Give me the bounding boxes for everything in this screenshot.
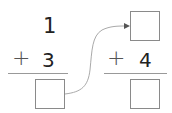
arrow-curve-icon [0,0,172,113]
